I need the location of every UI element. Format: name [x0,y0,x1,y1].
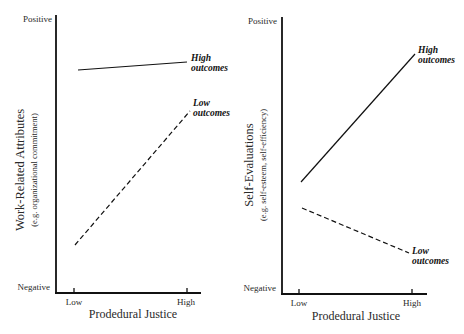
right-y-bottom-label: Negative [244,283,276,293]
left-chart: Positive Negative Work-Related Attribute… [13,14,230,321]
left-y-top-label: Positive [23,14,52,24]
right-label-high-line1: High [417,45,438,55]
right-label-high-line2: outcomes [418,55,455,65]
figure: Positive Negative Work-Related Attribute… [0,0,464,334]
right-x-axis-title: Prodedural Justice [312,309,400,323]
left-line-low-outcomes [75,111,190,245]
left-x-tick-label-high: High [177,297,196,307]
left-y-axis-title: Work-Related Attributes [13,109,27,231]
left-label-low-line2: outcomes [193,108,230,118]
right-label-low-line2: outcomes [412,256,449,266]
left-label-low-line1: Low [192,98,211,108]
right-label-low-line1: Low [411,246,430,256]
right-y-top-label: Positive [248,16,277,26]
left-label-high-line1: High [190,53,211,63]
left-line-high-outcomes [78,62,187,70]
left-label-high-line2: outcomes [191,63,228,73]
right-line-high-outcomes [301,54,415,182]
left-x-tick-label-low: Low [66,297,83,307]
left-y-bottom-label: Negative [18,282,50,292]
left-y-axis-subtitle: (e.g. organizational commitment) [29,113,39,227]
right-y-axis-title: Self-Evaluations [242,123,256,206]
right-x-tick-label-high: High [403,298,422,308]
right-line-low-outcomes [302,208,409,253]
right-x-tick-label-low: Low [291,298,308,308]
left-x-axis-title: Prodedural Justice [89,307,177,321]
right-chart: Positive Negative Self-Evaluations (e.g.… [242,16,455,323]
right-y-axis-subtitle: (e.g. self-esteem, self-efficiency) [258,109,268,221]
